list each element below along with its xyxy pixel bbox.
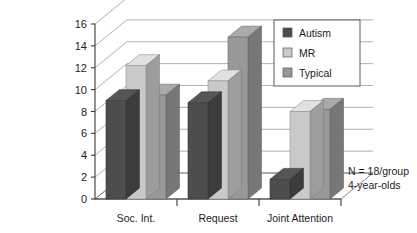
bar-side-face — [208, 92, 221, 199]
bar-front-face — [106, 101, 126, 199]
bar-side-face — [248, 26, 261, 199]
legend-item-typical[interactable]: Typical — [283, 67, 332, 79]
legend-swatch-icon — [283, 68, 292, 77]
legend-item-autism[interactable]: Autism — [283, 27, 331, 39]
x-tick-label: Request — [198, 212, 237, 224]
bar-autism-soc-int- — [106, 90, 139, 199]
y-tick-label: 4 — [81, 149, 87, 161]
y-tick-label: 8 — [81, 106, 87, 118]
annotation-age-group: 4-year-olds — [348, 179, 401, 191]
y-tick-label: 12 — [75, 62, 87, 74]
bar-autism-request — [188, 92, 221, 199]
y-tick-label: 14 — [75, 40, 87, 52]
bar-side-face — [146, 55, 159, 199]
bar-side-face — [228, 70, 241, 199]
y-tick-label: 10 — [75, 84, 87, 96]
legend-item-label: Typical — [299, 67, 332, 79]
legend-swatch-icon — [283, 48, 292, 57]
x-tick-labels: Soc. Int.RequestJoint Attention — [117, 199, 341, 224]
legend-swatch-icon — [283, 28, 292, 37]
legend-item-label: Autism — [299, 27, 331, 39]
bar-front-face — [270, 179, 290, 199]
annotation-sample-size: N = 18/group — [348, 165, 409, 177]
x-tick-label: Joint Attention — [267, 212, 333, 224]
y-tick-labels: 0246810121416 — [75, 18, 87, 205]
legend-item-mr[interactable]: MR — [283, 47, 316, 59]
y-tick-label: 16 — [75, 18, 87, 30]
bar-side-face — [310, 101, 323, 199]
chart-legend: AutismMRTypical — [274, 20, 360, 86]
bar-side-face — [166, 84, 179, 199]
chart-annotations: N = 18/group4-year-olds — [348, 165, 409, 191]
x-tick-label: Soc. Int. — [117, 212, 156, 224]
bar-front-face — [188, 103, 208, 199]
y-tick-label: 6 — [81, 127, 87, 139]
bar-side-face — [126, 90, 139, 199]
legend-item-label: MR — [299, 47, 316, 59]
bar-chart: 0246810121416 Soc. Int.RequestJoint Atte… — [0, 0, 417, 233]
bar-side-face — [330, 98, 343, 199]
chart-canvas: 0246810121416 Soc. Int.RequestJoint Atte… — [0, 0, 417, 233]
y-tick-label: 2 — [81, 171, 87, 183]
y-tick-label: 0 — [81, 193, 87, 205]
